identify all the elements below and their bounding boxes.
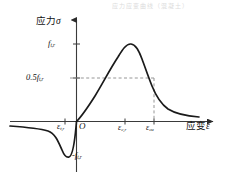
x-tick-label-eps-tr: εt,r [57,123,64,132]
origin-label: O [79,122,86,131]
y-tick-label-half-sub: t,r [39,76,44,82]
stress-strain-curve-figure: 应力应变曲线（混凝土） 应力σ 应变ε [0,0,227,184]
y-tick-label-half-f-tr: 0.5ft,r [26,73,44,82]
y-tick-label-half-prefix: 0.5 [26,72,37,82]
curve-tension-branch [10,122,77,158]
annotation-negative-peak: -ft,r [72,151,82,160]
x-tick-label-eps-cr: εc,r [118,124,126,133]
y-axis-title-cjk: 应力 [36,15,56,26]
x-tick-label-eps-tr-sub: t,r [60,126,64,131]
y-tick-label-f-tr-sub: t,r [50,42,55,48]
x-tick-label-eps-cu-sub: cu [149,127,153,132]
x-tick-label-eps-cu: εcu [146,124,154,133]
x-axis-title-cjk: 应变 [186,120,206,131]
x-axis-title: 应变ε [186,121,210,132]
plot-canvas [0,0,227,184]
x-tick-label-eps-cr-sub: c,r [121,127,126,132]
annotation-negative-peak-sub: t,r [77,154,82,160]
y-tick-label-f-tr: ft,r [48,39,55,48]
curve-compression-branch [77,44,200,122]
y-axis-title: 应力σ [36,16,61,27]
y-axis-title-symbol: σ [56,16,61,26]
x-axis-title-symbol: ε [206,121,210,131]
